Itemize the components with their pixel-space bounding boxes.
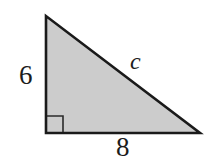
label-horizontal-leg-8: 8	[116, 134, 130, 158]
label-vertical-leg-6: 6	[19, 62, 33, 89]
label-hypotenuse-c: c	[130, 49, 141, 73]
figure-canvas: 6 c 8	[0, 0, 208, 158]
